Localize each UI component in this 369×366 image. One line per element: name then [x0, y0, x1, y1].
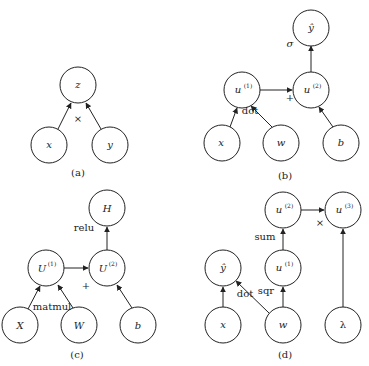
op-label-relu: relu: [74, 222, 95, 233]
node-label: u: [276, 262, 282, 273]
caption-a: (a): [71, 167, 85, 178]
panel-c: H U (1) U (2) X W b relu + matmul (c): [2, 190, 156, 360]
node-label: X: [15, 320, 24, 331]
op-label-multiply: ×: [316, 217, 324, 228]
node-superscript: (1): [244, 82, 253, 89]
panel-a: z x y × (a): [31, 67, 128, 178]
node-b: b: [120, 307, 156, 343]
node-label: u: [276, 204, 282, 215]
node-label: U: [99, 263, 108, 274]
node-label: ŷ: [219, 262, 226, 273]
node-superscript: (2): [109, 260, 118, 267]
node-z: z: [60, 67, 96, 103]
op-label-multiply: ×: [74, 113, 82, 124]
node-label: z: [74, 79, 81, 90]
node-label: u: [336, 204, 342, 215]
node-label: y: [106, 139, 113, 150]
node-label: x: [218, 137, 224, 148]
node-superscript: (1): [285, 260, 294, 267]
op-label-matmul: matmul: [33, 301, 72, 312]
node-x: x: [31, 127, 67, 163]
node-U2: U (2): [89, 250, 125, 286]
caption-c: (c): [70, 349, 84, 360]
caption-b: (b): [278, 170, 292, 181]
node-yhat: ŷ: [205, 250, 241, 286]
node-superscript: (2): [285, 202, 294, 209]
node-w: w: [263, 125, 299, 161]
computational-graph-figure: z x y × (a) ŷ u (1) u (2): [0, 0, 369, 366]
node-u2: u (2): [265, 192, 301, 228]
node-label: u: [304, 84, 310, 95]
panel-d: u (2) u (3) ŷ u (1) x w λ sum: [205, 192, 361, 360]
node-label: H: [102, 203, 112, 214]
edge-x-to-u1: [230, 108, 237, 127]
node-superscript: (2): [313, 82, 322, 89]
node-label: U: [38, 263, 47, 274]
op-label-sum: sum: [254, 231, 276, 242]
node-X: X: [2, 307, 38, 343]
edge-b-to-u2: [319, 107, 333, 127]
node-label: λ: [340, 319, 347, 330]
node-label: W: [74, 320, 85, 331]
node-x: x: [204, 125, 240, 161]
caption-d: (d): [278, 349, 292, 360]
node-lambda: λ: [325, 307, 361, 343]
node-label: w: [277, 137, 286, 148]
node-label: u: [235, 84, 241, 95]
op-label-sqr: sqr: [258, 285, 275, 296]
node-y: y: [92, 127, 128, 163]
node-yhat: ŷ: [293, 10, 329, 46]
node-u1: u (1): [224, 72, 260, 108]
panel-b: ŷ u (1) u (2) x w b σ + dot (b): [204, 10, 359, 181]
node-w: w: [265, 307, 301, 343]
node-W: W: [61, 307, 97, 343]
node-H: H: [89, 190, 125, 226]
node-u2: u (2): [293, 72, 329, 108]
op-label-dot: dot: [242, 105, 258, 116]
node-label: w: [279, 319, 288, 330]
edge-x-to-z: [58, 103, 71, 129]
op-label-plus: +: [286, 92, 294, 103]
node-u3: u (3): [325, 192, 361, 228]
node-label: x: [220, 319, 226, 330]
node-U1: U (1): [28, 250, 64, 286]
node-label: b: [338, 137, 344, 148]
node-u1: u (1): [265, 250, 301, 286]
node-b: b: [323, 125, 359, 161]
node-label: ŷ: [307, 22, 314, 33]
op-label-sigmoid: σ: [287, 38, 295, 49]
node-x: x: [205, 307, 241, 343]
op-label-plus: +: [82, 280, 90, 291]
node-superscript: (3): [345, 202, 354, 209]
edge-b-to-U2: [117, 285, 132, 308]
node-label: b: [135, 320, 141, 331]
node-superscript: (1): [48, 260, 57, 267]
node-label: x: [46, 139, 52, 150]
edge-y-to-z: [86, 103, 101, 129]
op-label-dot: dot: [237, 288, 253, 299]
